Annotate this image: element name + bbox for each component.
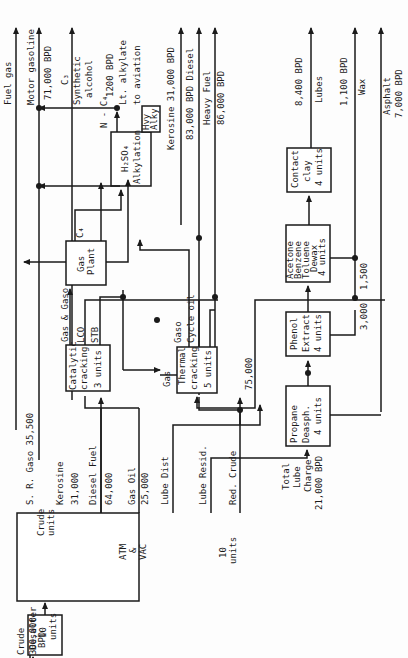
flow-75000: 75,000 bbox=[244, 357, 254, 390]
kerosine-label: Kerosine bbox=[55, 462, 65, 505]
to-aviation-label: to aviation bbox=[132, 45, 142, 105]
cycle-oil-label: Cycle oil bbox=[186, 294, 196, 343]
wax-product: Wax bbox=[357, 78, 367, 95]
wax-rate: 1,100 BPD bbox=[339, 57, 349, 106]
atm-label: ATM bbox=[118, 543, 128, 560]
gas-oil-label: Gas Oil bbox=[127, 467, 137, 505]
cracking-label: cracking bbox=[79, 347, 89, 390]
lt-alkylate-label: Lt. alkylate bbox=[118, 40, 128, 105]
feed-label: Crude bbox=[16, 628, 26, 655]
alkylation-box bbox=[111, 132, 151, 186]
alcohol-label: alcohol bbox=[84, 60, 94, 98]
desalter-count: 10 bbox=[38, 627, 48, 638]
h2so4-label: H₂SO₄ bbox=[120, 145, 130, 172]
lubes-rate: 8,400 BPD bbox=[294, 57, 304, 106]
asphalt-rate: 7,000 BPD bbox=[394, 69, 404, 118]
thermal-label: Thermal bbox=[177, 347, 187, 385]
lubes-product: Lubes bbox=[314, 76, 324, 103]
flow-1500: 1,500 bbox=[359, 263, 369, 290]
diesel-label: Diesel Fuel bbox=[88, 445, 98, 505]
asphalt-product: Asphalt bbox=[382, 77, 392, 115]
thermal-gas-label: Gas bbox=[162, 371, 172, 387]
deasph-label: Deasph. bbox=[301, 405, 311, 443]
synthetic-label: Synthetic bbox=[72, 56, 82, 105]
total-lube-2: Lube bbox=[292, 466, 302, 488]
alkylation-label: Alkylation bbox=[132, 130, 142, 184]
amp-label: & bbox=[128, 547, 138, 553]
catalytic-label: Catalytic bbox=[68, 341, 78, 390]
diesel-rate: 64,000 bbox=[104, 472, 114, 505]
alky-label: Alky bbox=[149, 108, 159, 130]
heavy-fuel-rate: 86,000 BPD bbox=[216, 71, 226, 125]
flow-3000: 3,000 bbox=[359, 303, 369, 330]
motor-gasoline-rate: 71,000 BPD bbox=[43, 46, 53, 100]
refinery-flow-diagram: Crude 300,000 BPD Desalter 10 units Crud… bbox=[0, 0, 408, 658]
thermal-gaso-label: Gaso bbox=[173, 321, 183, 343]
dewax-units: 4 units bbox=[317, 238, 327, 276]
crude-units-label-2: units bbox=[46, 509, 56, 536]
fuel-gas-product: Fuel gas bbox=[3, 62, 13, 105]
extract-label: Extract bbox=[301, 314, 311, 352]
lco-label: LCO bbox=[76, 327, 86, 343]
clay-units: 4 units bbox=[314, 148, 324, 186]
total-lube-3: Charge bbox=[303, 459, 313, 492]
heavy-fuel-product: Heavy Fuel bbox=[202, 71, 212, 125]
thermal-units: 5 units bbox=[203, 350, 213, 388]
crude-count-units: units bbox=[228, 537, 238, 564]
vac-label: VAC bbox=[138, 544, 148, 560]
stb-label: STB bbox=[90, 327, 100, 343]
phenol-label: Phenol bbox=[289, 317, 299, 350]
gas-oil-rate: 25,000 bbox=[140, 472, 150, 505]
kerosine-rate: 31,000 bbox=[70, 472, 80, 505]
diagram-canvas: Crude 300,000 BPD Desalter 10 units Crud… bbox=[0, 0, 408, 658]
lube-dist-label: Lube Dist bbox=[160, 456, 170, 505]
desalter-units: units bbox=[48, 613, 58, 640]
lube-resid-label: Lube Resid. bbox=[198, 445, 208, 505]
contact-label: Contact bbox=[290, 150, 300, 188]
propane-units: 4 units bbox=[313, 397, 323, 435]
red-crude-label: Red. Crude bbox=[228, 451, 238, 505]
kerosine-product: Kerosine 31,000 BPD bbox=[166, 47, 176, 150]
diesel-product: 83,000 BPD Diesel bbox=[185, 48, 195, 140]
total-lube-1: Total bbox=[281, 463, 291, 490]
crude-units-label: Crude bbox=[36, 509, 46, 536]
sr-gaso-label: S. R. Gaso 35,500 bbox=[25, 413, 35, 505]
desalter-label: Desalter bbox=[28, 606, 38, 650]
propane-label: Propane bbox=[289, 405, 299, 443]
motor-gasoline-product: Motor gasoline bbox=[26, 29, 36, 105]
c4-label: C₄ bbox=[75, 227, 85, 238]
clay-label: clay bbox=[302, 160, 312, 182]
crude-count: 10 bbox=[218, 547, 228, 558]
gas-gaso-label: Gas & Gaso bbox=[60, 288, 70, 342]
n-c4-label: N - C₄ bbox=[99, 95, 109, 128]
gas-plant-label: Gas bbox=[76, 256, 86, 272]
catalytic-units: 3 units bbox=[93, 350, 103, 388]
phenol-units: 4 units bbox=[313, 314, 323, 352]
gas-plant-label-2: Plant bbox=[86, 248, 96, 275]
thermal-cracking-label: cracking bbox=[189, 347, 199, 390]
c3-label: C₃ bbox=[60, 74, 70, 85]
alkylate-rate: 1200 BPD bbox=[105, 54, 115, 97]
total-lube-4: 21,000 BPD bbox=[314, 456, 324, 510]
